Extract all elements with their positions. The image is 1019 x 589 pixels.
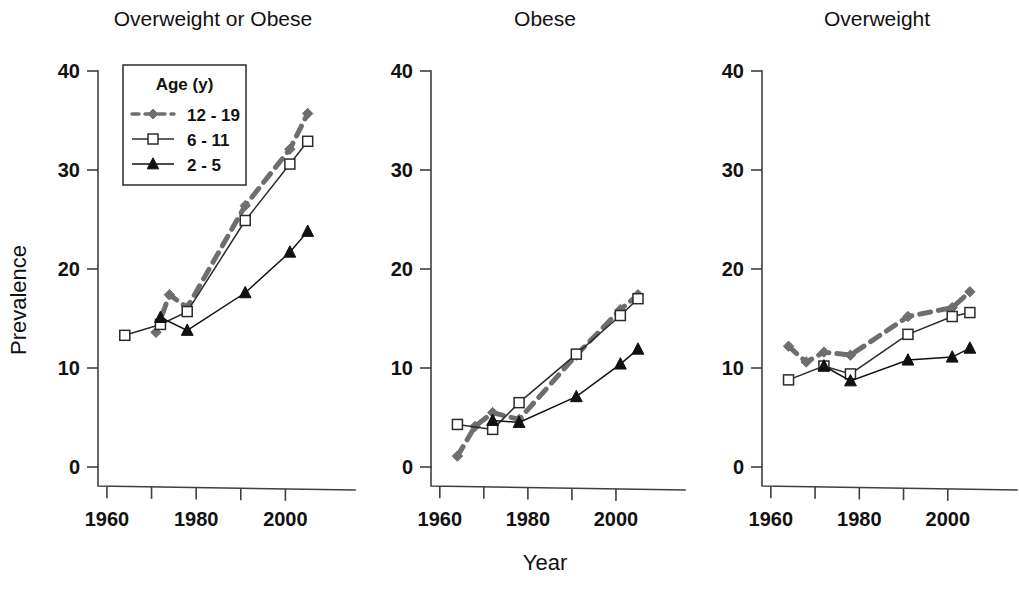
y-tick-label: 20: [391, 258, 413, 280]
y-tick-label: 40: [722, 60, 744, 82]
legend-marker-open-square: [148, 134, 158, 144]
series-line-2-5: [493, 349, 638, 422]
y-tick-label: 20: [722, 258, 744, 280]
y-tick-label: 0: [733, 456, 744, 478]
legend-item-label: 12 - 19: [187, 106, 240, 125]
panel-title-2: Obese: [514, 7, 576, 30]
legend-item-label: 6 - 11: [187, 131, 230, 150]
x-tick-label: 2000: [594, 508, 639, 530]
marker-open-square: [903, 329, 913, 339]
marker-filled-triangle: [181, 324, 193, 335]
series-line-12-19: [457, 295, 638, 456]
x-axis-line-1: [98, 467, 355, 490]
marker-diamond: [965, 287, 975, 297]
chart-panel-3: Overweight010203040196019802000: [722, 7, 1017, 530]
marker-filled-triangle: [946, 351, 958, 362]
panel-title-3: Overweight: [824, 7, 930, 30]
marker-open-square: [965, 308, 975, 318]
y-tick-label: 40: [391, 60, 413, 82]
marker-filled-triangle: [964, 342, 976, 353]
x-tick-label: 1960: [418, 508, 463, 530]
x-tick-label: 1960: [85, 508, 130, 530]
x-axis-line-2: [431, 467, 685, 490]
marker-filled-triangle: [632, 343, 644, 354]
y-tick-label: 30: [722, 159, 744, 181]
y-tick-label: 0: [69, 456, 80, 478]
panel-title-1: Overweight or Obese: [114, 7, 312, 30]
marker-open-square: [452, 419, 462, 429]
marker-open-square: [182, 307, 192, 317]
marker-filled-triangle: [570, 390, 582, 401]
legend[interactable]: Age (y)12 - 196 - 112 - 5: [123, 65, 246, 185]
figure-container: Overweight or Obese010203040196019802000…: [0, 0, 1019, 589]
chart-panel-2: Obese010203040196019802000: [391, 7, 685, 530]
y-axis-title: Prevalence: [6, 245, 31, 355]
x-tick-label: 1960: [749, 508, 794, 530]
y-tick-label: 40: [58, 60, 80, 82]
marker-open-square: [571, 349, 581, 359]
marker-open-square: [240, 215, 250, 225]
marker-filled-triangle: [302, 225, 314, 236]
series-line-12-19: [789, 292, 970, 362]
x-tick-label: 2000: [263, 508, 308, 530]
y-tick-label: 0: [402, 456, 413, 478]
marker-filled-triangle: [614, 358, 626, 369]
x-axis-line-3: [762, 467, 1017, 490]
legend-title: Age (y): [156, 75, 214, 94]
x-tick-label: 1980: [837, 508, 882, 530]
prevalence-trend-figure: Overweight or Obese010203040196019802000…: [0, 0, 1019, 589]
y-tick-label: 20: [58, 258, 80, 280]
marker-open-square: [514, 398, 524, 408]
marker-open-square: [633, 294, 643, 304]
marker-open-square: [784, 375, 794, 385]
y-tick-label: 10: [58, 357, 80, 379]
marker-open-square: [303, 136, 313, 146]
y-tick-label: 30: [391, 159, 413, 181]
marker-open-square: [285, 159, 295, 169]
x-tick-label: 1980: [174, 508, 219, 530]
chart-panel-1: Overweight or Obese010203040196019802000…: [58, 7, 355, 530]
marker-open-square: [947, 312, 957, 322]
y-tick-label: 10: [722, 357, 744, 379]
y-tick-label: 30: [58, 159, 80, 181]
marker-open-square: [120, 330, 130, 340]
x-tick-label: 1980: [506, 508, 551, 530]
x-axis-title: Year: [523, 550, 567, 575]
marker-open-square: [615, 311, 625, 321]
y-tick-label: 10: [391, 357, 413, 379]
legend-item-label: 2 - 5: [187, 156, 221, 175]
x-tick-label: 2000: [926, 508, 971, 530]
